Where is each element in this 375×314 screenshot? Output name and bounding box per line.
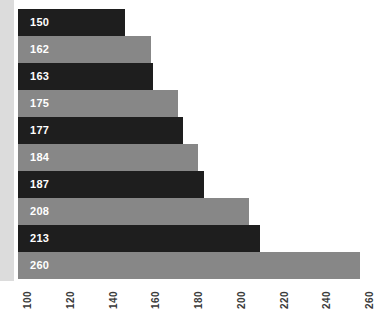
x-axis-tick-label: 220 xyxy=(279,291,290,309)
x-axis-tick-label: 160 xyxy=(150,291,161,309)
bar-row: 187 xyxy=(0,171,370,198)
bar-row: 162 xyxy=(0,36,370,63)
x-axis-tick-label: 140 xyxy=(108,291,119,309)
bar-row: 175 xyxy=(0,90,370,117)
bar-value-label: 260 xyxy=(30,252,49,279)
bar-value-label: 208 xyxy=(30,198,49,225)
bar-value-label: 184 xyxy=(30,144,49,171)
x-axis-tick-label: 260 xyxy=(364,291,375,309)
bar-value-label: 162 xyxy=(30,36,49,63)
bar-value-label: 187 xyxy=(30,171,49,198)
bar-value-label: 150 xyxy=(30,9,49,36)
bar[interactable] xyxy=(18,225,260,252)
bar-row: 260 xyxy=(0,252,370,279)
x-axis-tick-label: 120 xyxy=(65,291,76,309)
x-axis: 100120140160180200220240260 xyxy=(0,279,370,314)
bar-row: 184 xyxy=(0,144,370,171)
x-axis-tick-label: 200 xyxy=(236,291,247,309)
bar-row: 208 xyxy=(0,198,370,225)
bar-value-label: 175 xyxy=(30,90,49,117)
x-axis-tick-label: 180 xyxy=(193,291,204,309)
x-axis-tick-label: 100 xyxy=(22,291,33,309)
bar[interactable] xyxy=(18,198,249,225)
bar-value-label: 177 xyxy=(30,117,49,144)
bar[interactable] xyxy=(18,252,360,279)
bar-row: 150 xyxy=(0,9,370,36)
bar-value-label: 213 xyxy=(30,225,49,252)
bar-row: 177 xyxy=(0,117,370,144)
plot-area: 150162163175177184187208213260 xyxy=(0,9,370,279)
bar-row: 163 xyxy=(0,63,370,90)
bar-value-label: 163 xyxy=(30,63,49,90)
x-axis-tick-label: 240 xyxy=(321,291,332,309)
bar-row: 213 xyxy=(0,225,370,252)
